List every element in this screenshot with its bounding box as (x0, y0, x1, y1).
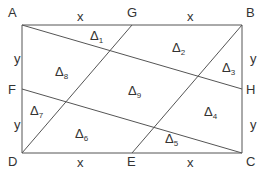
segment-be (132, 25, 242, 153)
delta-symbol: Δ (172, 40, 181, 55)
side-label-y: y (14, 51, 21, 66)
region-label-delta-6: Δ6 (75, 126, 89, 143)
side-label-y: y (250, 117, 257, 132)
region-label-delta-3: Δ3 (222, 60, 236, 77)
vertex-label-g: G (127, 5, 137, 20)
delta-symbol: Δ (55, 64, 64, 79)
delta-subscript: 1 (99, 36, 104, 45)
side-label-y: y (14, 117, 21, 132)
delta-symbol: Δ (204, 104, 213, 119)
delta-symbol: Δ (222, 60, 231, 75)
delta-subscript: 9 (137, 91, 142, 100)
delta-subscript: 4 (213, 112, 218, 121)
segment-ah (22, 25, 242, 89)
delta-symbol: Δ (165, 131, 174, 146)
vertex-label-h: H (246, 82, 255, 97)
vertex-label-a: A (8, 5, 17, 20)
delta-subscript: 3 (231, 68, 236, 77)
side-label-x: x (77, 155, 84, 170)
vertex-label-c: C (246, 154, 255, 169)
vertex-label-f: F (8, 82, 16, 97)
region-label-delta-7: Δ7 (30, 103, 44, 120)
vertex-label-b: B (246, 5, 255, 20)
diagram-canvas: AGBHCEDF xxxxyyyy Δ1Δ2Δ3Δ4Δ5Δ6Δ7Δ8Δ9 (0, 0, 262, 172)
delta-subscript: 5 (174, 139, 179, 148)
region-label-delta-9: Δ9 (128, 83, 142, 100)
delta-symbol: Δ (128, 83, 137, 98)
side-label-x: x (187, 9, 194, 24)
segment-fc (22, 89, 242, 153)
delta-subscript: 7 (39, 111, 44, 120)
vertex-label-e: E (127, 154, 136, 169)
vertex-label-d: D (8, 154, 17, 169)
region-label-delta-1: Δ1 (90, 28, 104, 45)
side-label-x: x (187, 155, 194, 170)
delta-symbol: Δ (75, 126, 84, 141)
side-label-x: x (77, 9, 84, 24)
region-label-delta-8: Δ8 (55, 64, 69, 81)
region-label-delta-2: Δ2 (172, 40, 186, 57)
delta-subscript: 8 (64, 72, 69, 81)
region-labels: Δ1Δ2Δ3Δ4Δ5Δ6Δ7Δ8Δ9 (30, 28, 236, 148)
side-label-y: y (250, 51, 257, 66)
region-label-delta-4: Δ4 (204, 104, 218, 121)
delta-subscript: 6 (84, 134, 89, 143)
delta-symbol: Δ (90, 28, 99, 43)
delta-symbol: Δ (30, 103, 39, 118)
delta-subscript: 2 (181, 48, 186, 57)
rectangle-partition-diagram: AGBHCEDF xxxxyyyy Δ1Δ2Δ3Δ4Δ5Δ6Δ7Δ8Δ9 (0, 0, 262, 172)
